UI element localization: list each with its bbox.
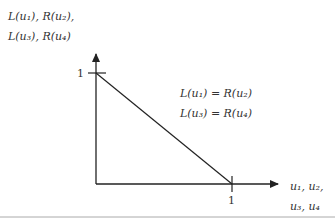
x-axis-label-line2: u₃, u₄ <box>290 200 320 213</box>
equation-line2: L(u₃) = R(u₄) <box>179 107 252 120</box>
diagram: L(u₁), R(u₂), L(u₃), R(u₄) 1 1 L(u₁) = R… <box>0 0 335 220</box>
x-axis-label-line1: u₁, u₂, <box>290 180 323 193</box>
y-axis-label-line1: L(u₁), R(u₂), <box>7 10 74 23</box>
y-tick-label: 1 <box>77 67 84 80</box>
x-tick-label: 1 <box>228 194 235 207</box>
y-axis-label-line2: L(u₃), R(u₄) <box>7 30 71 43</box>
equation-line1: L(u₁) = R(u₂) <box>179 87 252 100</box>
